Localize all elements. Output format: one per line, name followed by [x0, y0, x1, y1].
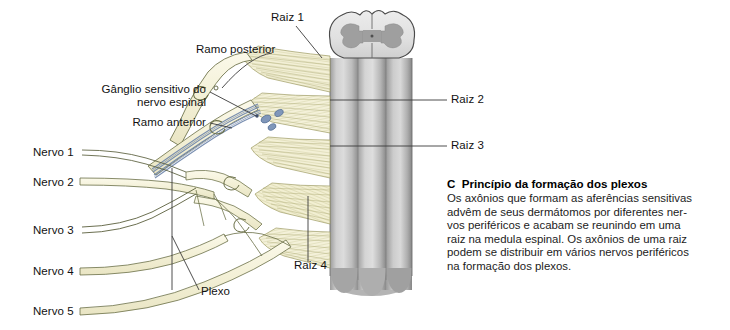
nerve-2-band — [80, 178, 214, 199]
label-nervo-2: Nervo 2 — [33, 176, 74, 189]
caption-line: raiz na medula espinal. Os axônios de um… — [447, 233, 683, 247]
caption-line: advêm de seus dermátomos por diferentes … — [447, 206, 683, 220]
label-ramo-posterior: Ramo posterior — [196, 43, 275, 56]
caption-line: na formação dos plexos. — [447, 260, 683, 274]
plexus-anastomosis-2 — [194, 196, 262, 230]
cord-column-mid — [358, 58, 386, 290]
nerve-4-band — [80, 234, 228, 275]
caption-line: vos periféricos e acabam se reunindo em … — [447, 219, 683, 233]
cord-cross-section — [330, 11, 415, 59]
spinal-plexus-illustration — [0, 0, 730, 330]
caption-block: C Princípio da formação dos plexos Os ax… — [447, 177, 683, 274]
caption-line: podem se distribuir em vários nervos per… — [447, 246, 683, 260]
label-ramo-anterior: Ramo anterior — [95, 116, 206, 129]
label-nervo-5: Nervo 5 — [33, 305, 74, 318]
label-raiz-1: Raiz 1 — [271, 11, 304, 24]
label-nervo-1: Nervo 1 — [33, 146, 74, 159]
cord-column-left — [330, 58, 358, 290]
label-raiz-4: Raiz 4 — [294, 259, 327, 272]
caption-line: Os axônios que formam as aferências sens… — [447, 192, 683, 206]
label-raiz-3: Raiz 3 — [451, 139, 484, 152]
caption-heading: C Princípio da formação dos plexos — [447, 177, 683, 191]
label-nervo-3: Nervo 3 — [33, 224, 74, 237]
label-raiz-2: Raiz 2 — [451, 93, 484, 106]
spinal-cord — [330, 11, 415, 297]
label-ganglio-sensitivo-line1: Gânglio sensitivo do — [88, 83, 206, 96]
nerve-3-upper — [82, 188, 196, 227]
label-nervo-4: Nervo 4 — [33, 265, 74, 278]
plexus-formation-figure: Ramo posterior Gânglio sensitivo do nerv… — [0, 0, 730, 330]
caption-body: Os axônios que formam as aferências sens… — [447, 192, 683, 274]
cord-column-right — [386, 58, 412, 290]
nerve-rootlet-fans — [243, 46, 330, 268]
label-ganglio-sensitivo-line2: nervo espinal — [88, 96, 206, 109]
label-plexo: Plexo — [201, 285, 230, 298]
